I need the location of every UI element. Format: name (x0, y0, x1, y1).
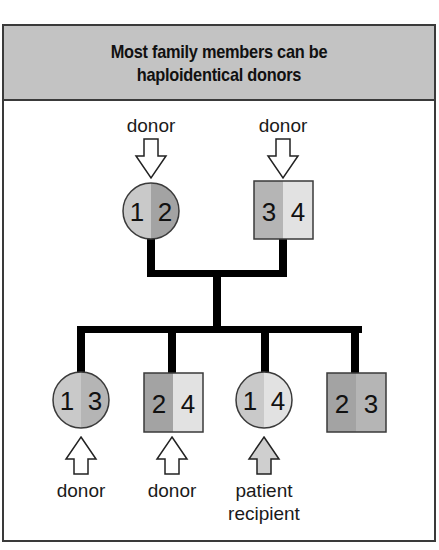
mother-node: 1 2 (123, 183, 179, 239)
father-node: 3 4 (254, 181, 313, 239)
patient-label-line-2: recipient (228, 503, 301, 524)
child1-drop-line (77, 326, 85, 373)
child1-donor-label: donor (57, 480, 106, 501)
child2-up-arrow-icon (157, 437, 187, 474)
pedigree-diagram: donor donor 1 2 3 4 1 3 2 (0, 0, 439, 550)
father-down-arrow-icon (268, 139, 298, 178)
child4-node: 2 3 (327, 373, 386, 432)
child1-node: 1 3 (53, 372, 109, 428)
child2-donor-label: donor (148, 480, 197, 501)
child4-haplotype-a: 2 (335, 389, 349, 419)
patient-label-line-1: patient (235, 480, 293, 501)
child1-up-arrow-icon (66, 437, 96, 474)
father-donor-label: donor (259, 115, 308, 136)
child3-haplotype-b: 4 (271, 386, 285, 416)
child4-haplotype-b: 3 (364, 389, 378, 419)
pedigree-lines (77, 238, 362, 374)
child3-haplotype-a: 1 (243, 386, 257, 416)
child1-haplotype-b: 3 (88, 386, 102, 416)
mother-haplotype-a: 1 (130, 197, 144, 227)
mother-down-arrow-icon (136, 139, 166, 178)
mother-haplotype-b: 2 (158, 197, 172, 227)
child1-haplotype-a: 1 (60, 386, 74, 416)
child3-node: 1 4 (236, 372, 292, 428)
sibship-line (77, 326, 362, 333)
child2-drop-line (168, 326, 176, 374)
child2-haplotype-a: 2 (152, 389, 166, 419)
patient-up-arrow-icon (249, 437, 279, 474)
child2-haplotype-b: 4 (181, 389, 195, 419)
descent-line (213, 270, 221, 333)
child3-drop-line (261, 326, 269, 373)
child2-node: 2 4 (144, 373, 203, 432)
father-haplotype-b: 4 (291, 197, 305, 227)
father-haplotype-a: 3 (262, 197, 276, 227)
child4-drop-line (351, 326, 359, 374)
mother-donor-label: donor (127, 115, 176, 136)
